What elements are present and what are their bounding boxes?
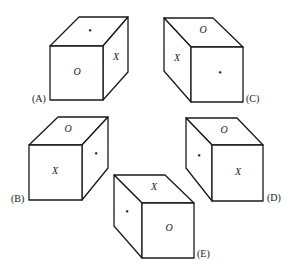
cube-c-front-face	[191, 47, 243, 102]
cube-a-top-symbol: •	[88, 25, 92, 36]
cube-d-side-symbol: •	[197, 150, 201, 161]
cube-c-front-symbol: •	[218, 67, 222, 78]
cube-e: X • O (E)	[114, 175, 210, 260]
cube-c: O X • (C)	[164, 18, 259, 105]
cube-c-top-symbol: O	[199, 24, 206, 35]
cube-b-top-symbol: O	[64, 123, 71, 134]
cube-a: • X O (A)	[32, 17, 128, 105]
cube-b-side-symbol: •	[94, 148, 98, 159]
cube-b: O • X (B)	[11, 117, 108, 205]
cube-d-label: (D)	[267, 192, 281, 204]
cube-a-label: (A)	[32, 93, 46, 105]
cube-a-side-symbol: X	[112, 51, 120, 62]
cube-c-side-symbol: X	[173, 52, 181, 63]
cube-e-side-symbol: •	[125, 206, 129, 217]
cube-d-top-symbol: O	[220, 124, 227, 135]
cube-b-front-symbol: X	[51, 165, 59, 176]
cube-b-label: (B)	[11, 193, 24, 205]
cube-d: O • X (D)	[186, 118, 281, 204]
cube-e-label: (E)	[197, 248, 210, 260]
cube-e-top-symbol: X	[150, 181, 158, 192]
cube-a-front-symbol: O	[73, 66, 80, 77]
cube-e-front-symbol: O	[165, 222, 172, 233]
cube-d-front-symbol: X	[234, 166, 242, 177]
cube-diagram: • X O (A) O X • (C) O • X (B) O • X (D)	[0, 0, 294, 279]
cube-c-label: (C)	[246, 93, 259, 105]
